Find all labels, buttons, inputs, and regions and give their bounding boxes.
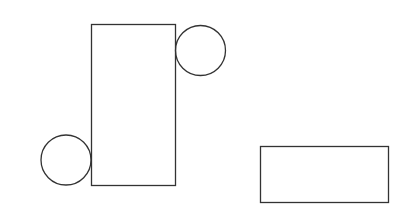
wide-rectangle	[261, 147, 389, 203]
bottom-left-circle	[41, 135, 91, 185]
tall-rectangle	[92, 25, 176, 186]
diagram-svg	[0, 0, 409, 220]
diagram-canvas	[0, 0, 409, 220]
top-right-circle	[176, 26, 226, 76]
